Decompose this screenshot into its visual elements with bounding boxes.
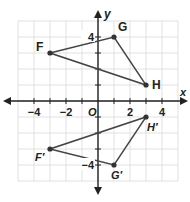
- vertex-point: [143, 114, 148, 119]
- x-tick-label: −2: [60, 106, 73, 118]
- origin-label: O: [88, 106, 97, 118]
- x-tick-label: −4: [28, 106, 41, 118]
- vertex-point: [143, 82, 148, 87]
- x-axis-label: x: [179, 86, 187, 98]
- vertex-point: [111, 162, 116, 167]
- x-tick-label: 2: [127, 106, 133, 118]
- vertex-label: F: [36, 40, 43, 54]
- y-tick-label: 4: [88, 31, 95, 43]
- vertex-label: G′: [111, 169, 124, 181]
- vertex-label: H′: [147, 121, 159, 133]
- x-axis-left-arrow-icon: [3, 97, 11, 105]
- y-axis-up-arrow-icon: [94, 10, 102, 18]
- y-axis-label: y: [103, 7, 112, 21]
- vertex-label: F′: [35, 151, 46, 163]
- coordinate-plane: xyO−4−2244−4FGHF′G′H′: [0, 0, 190, 202]
- vertex-label: G: [118, 20, 127, 34]
- x-axis-right-arrow-icon: [180, 97, 188, 105]
- labels: xyO−4−2244−4FGHF′G′H′: [28, 7, 187, 181]
- y-tick-label: −4: [81, 159, 94, 171]
- x-tick-label: 4: [159, 106, 166, 118]
- y-axis-down-arrow-icon: [94, 187, 102, 195]
- vertex-point: [47, 50, 52, 55]
- axes: [3, 10, 188, 195]
- vertex-label: H: [152, 78, 161, 92]
- vertex-point: [111, 34, 116, 39]
- vertex-point: [47, 146, 52, 151]
